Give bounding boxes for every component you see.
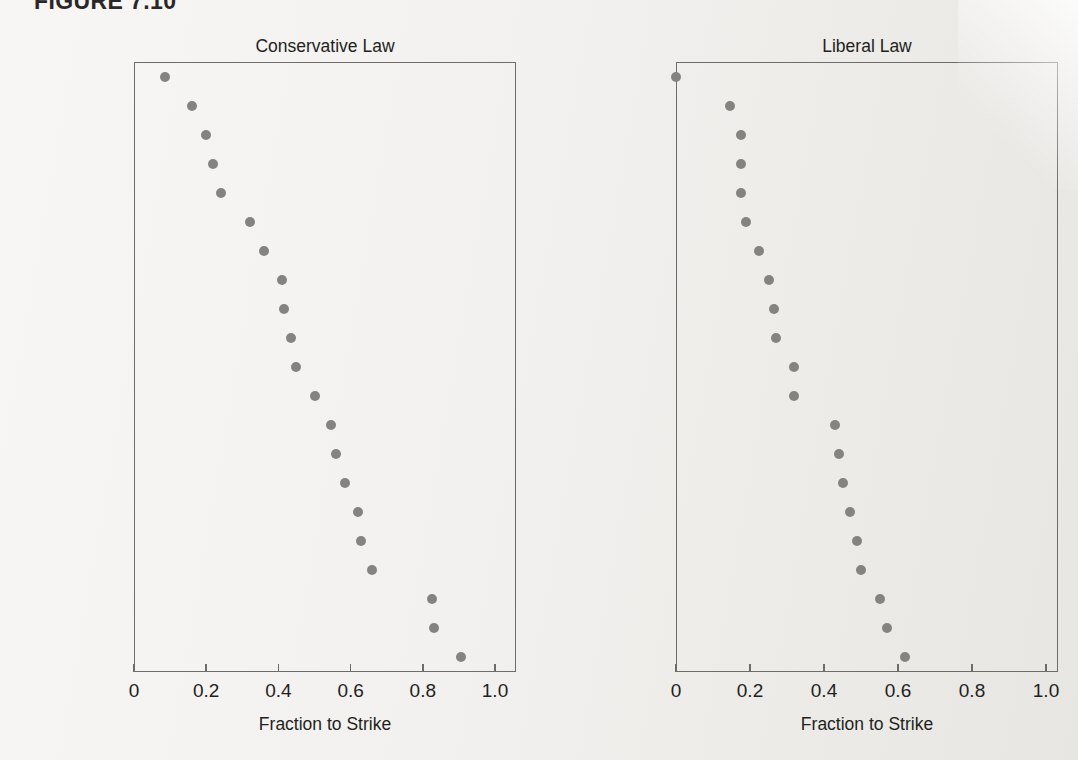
x-axis-tick-label: 0.4 — [265, 680, 291, 702]
x-axis-title-liberal-law: Fraction to Strike — [801, 714, 933, 735]
data-point — [310, 391, 320, 401]
data-point — [725, 101, 735, 111]
chart-title-liberal-law: Liberal Law — [676, 36, 1058, 57]
x-axis-tick-label: 0.6 — [885, 680, 911, 702]
x-axis-tick-label: 0.2 — [737, 680, 763, 702]
data-point — [429, 623, 439, 633]
data-point — [838, 478, 848, 488]
data-point — [340, 478, 350, 488]
data-point — [286, 333, 296, 343]
data-point — [277, 275, 287, 285]
x-axis-tick-label: 0.8 — [959, 680, 985, 702]
x-axis-tick — [1045, 664, 1047, 672]
x-axis-tick — [278, 664, 280, 672]
x-axis-tick — [749, 664, 751, 672]
plot-frame-liberal-law — [676, 62, 1058, 672]
data-point — [845, 507, 855, 517]
x-axis-tick-label: 0.8 — [410, 680, 436, 702]
x-axis-tick — [675, 664, 677, 672]
x-axis-tick-label: 0 — [671, 680, 682, 702]
data-point — [326, 420, 336, 430]
data-point — [160, 72, 170, 82]
data-point — [208, 159, 218, 169]
x-axis-tick — [971, 664, 973, 672]
data-point — [367, 565, 377, 575]
data-point — [875, 594, 885, 604]
data-point — [741, 217, 751, 227]
data-point — [882, 623, 892, 633]
data-point — [245, 217, 255, 227]
data-point — [216, 188, 226, 198]
data-point — [830, 420, 840, 430]
data-point — [259, 246, 269, 256]
data-point — [427, 594, 437, 604]
x-axis-tick — [823, 664, 825, 672]
data-point — [736, 130, 746, 140]
x-axis-tick — [205, 664, 207, 672]
data-point — [769, 304, 779, 314]
data-point — [900, 652, 910, 662]
x-axis-tick-label: 0.4 — [811, 680, 837, 702]
data-point — [789, 362, 799, 372]
data-point — [671, 72, 681, 82]
figure-page: FIGURE 7.10 Conservative Law AlitoRehnqu… — [0, 0, 1078, 760]
data-point — [771, 333, 781, 343]
x-axis-tick-label: 0.2 — [193, 680, 219, 702]
data-point — [356, 536, 366, 546]
data-point — [736, 188, 746, 198]
data-point — [736, 159, 746, 169]
data-point — [856, 565, 866, 575]
x-axis-tick — [350, 664, 352, 672]
data-point — [331, 449, 341, 459]
x-axis-title-conservative-law: Fraction to Strike — [259, 714, 391, 735]
x-axis-tick — [494, 664, 496, 672]
figure-label: FIGURE 7.10 — [34, 0, 176, 15]
x-axis-tick-label: 1.0 — [1033, 680, 1059, 702]
data-point — [456, 652, 466, 662]
data-point — [834, 449, 844, 459]
data-point — [353, 507, 363, 517]
x-axis-tick-label: 0 — [129, 680, 140, 702]
data-point — [279, 304, 289, 314]
data-point — [187, 101, 197, 111]
data-point — [789, 391, 799, 401]
x-axis-tick — [897, 664, 899, 672]
data-point — [764, 275, 774, 285]
x-axis-tick-label: 0.6 — [337, 680, 363, 702]
x-axis-tick-label: 1.0 — [482, 680, 508, 702]
data-point — [754, 246, 764, 256]
plot-frame-conservative-law — [134, 62, 516, 672]
data-point — [291, 362, 301, 372]
x-axis-tick — [422, 664, 424, 672]
chart-title-conservative-law: Conservative Law — [134, 36, 516, 57]
data-point — [852, 536, 862, 546]
data-point — [201, 130, 211, 140]
x-axis-tick — [133, 664, 135, 672]
